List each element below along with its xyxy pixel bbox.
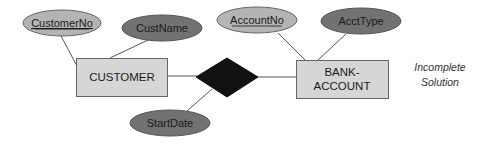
line-accttype-bankaccount [318,34,346,60]
entity-customer[interactable]: CUSTOMER [77,59,168,97]
attribute-customerno[interactable]: CustomerNo [23,10,101,36]
line-customerno-customer [61,36,77,66]
attribute-custname-label: CustName [136,22,188,34]
entity-bank-account-label-line2: ACCOUNT [314,80,371,92]
incomplete-solution-note: Incomplete Solution [405,60,475,90]
attribute-customerno-label: CustomerNo [31,17,93,29]
attribute-accountno[interactable]: AccountNo [217,7,297,33]
note-line1: Incomplete [405,60,475,75]
line-startdate-relationship [187,89,212,111]
entity-bank-account-label-line1: BANK- [324,66,359,78]
attribute-accountno-label: AccountNo [230,14,284,26]
attribute-accttype[interactable]: AcctType [321,8,401,34]
attribute-startdate[interactable]: StartDate [130,110,210,136]
line-custname-customer [110,40,148,58]
relationship-diamond[interactable] [196,58,258,97]
entity-bank-account[interactable]: BANK- ACCOUNT [297,61,389,99]
entity-customer-label: CUSTOMER [89,71,155,83]
attribute-custname[interactable]: CustName [122,15,202,41]
attribute-startdate-label: StartDate [147,117,193,129]
line-accountno-bankaccount [278,33,305,60]
note-line2: Solution [405,75,475,90]
attribute-accttype-label: AcctType [338,15,383,27]
